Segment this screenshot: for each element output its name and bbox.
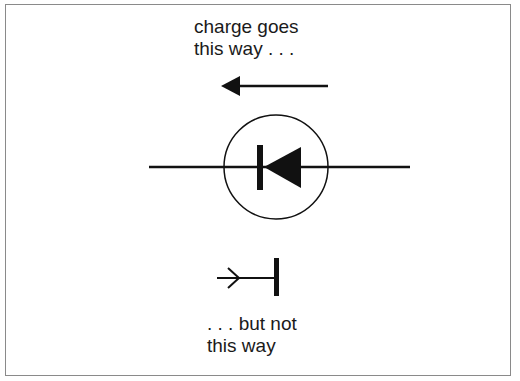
bottom-caption-line1: . . . but not xyxy=(207,313,297,335)
diode-symbol xyxy=(149,115,410,219)
diode-triangle-icon xyxy=(264,147,301,188)
bottom-caption: . . . but notthis way xyxy=(207,313,297,357)
top-caption-line2: this way . . . xyxy=(194,38,299,60)
arrowhead-left-icon xyxy=(221,76,240,96)
cathode-bar xyxy=(257,145,263,190)
blocking-bar xyxy=(274,258,279,296)
top-caption: charge goesthis way . . . xyxy=(194,16,299,60)
allowed-direction-arrow xyxy=(221,76,328,96)
blocked-direction-arrow xyxy=(217,258,279,296)
top-caption-line1: charge goes xyxy=(194,16,299,38)
bottom-caption-line2: this way xyxy=(207,335,297,357)
